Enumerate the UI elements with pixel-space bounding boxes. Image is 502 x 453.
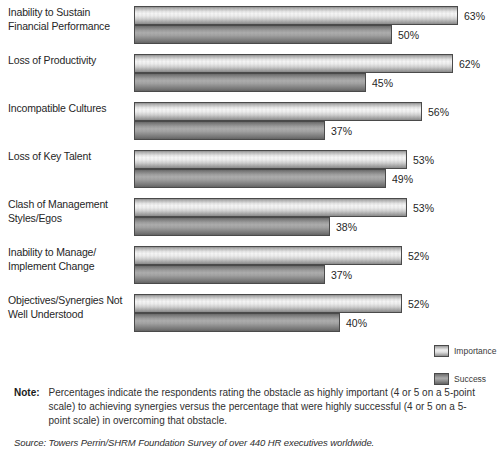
note-block: Note: Percentages indicate the responden…	[14, 386, 484, 428]
bar-group: Loss of Productivity62%45%	[0, 54, 502, 98]
bar-value-label: 56%	[428, 106, 449, 118]
legend-label-success: Success	[454, 374, 486, 384]
bar-importance: 62%	[134, 54, 453, 73]
bar-pair: 53%38%	[134, 198, 407, 236]
category-label: Inability to Manage/Implement Change	[8, 246, 130, 273]
category-label-line: Objectives/Synergies Not	[8, 294, 130, 308]
bar-pair: 52%37%	[134, 246, 402, 284]
bar-importance: 53%	[134, 198, 407, 217]
category-label-line: Loss of Productivity	[8, 54, 130, 68]
category-label: Objectives/Synergies NotWell Understood	[8, 294, 130, 321]
bar-group: Objectives/Synergies NotWell Understood5…	[0, 294, 502, 338]
bar-success: 45%	[134, 73, 366, 92]
bar-importance: 63%	[134, 6, 458, 25]
bar-pair: 63%50%	[134, 6, 458, 44]
bar-value-label: 49%	[392, 173, 413, 185]
bar-group: Incompatible Cultures56%37%	[0, 102, 502, 146]
bar-group: Inability to SustainFinancial Performanc…	[0, 6, 502, 50]
bar-importance: 56%	[134, 102, 422, 121]
category-label-line: Inability to Sustain	[8, 6, 130, 20]
bar-value-label: 52%	[408, 298, 429, 310]
source-line: Source: Towers Perrin/SHRM Foundation Su…	[14, 437, 494, 448]
bar-pair: 52%40%	[134, 294, 402, 332]
category-label: Inability to SustainFinancial Performanc…	[8, 6, 130, 33]
note-text: Percentages indicate the respondents rat…	[49, 386, 484, 428]
bar-importance: 53%	[134, 150, 407, 169]
category-label-line: Styles/Egos	[8, 212, 130, 226]
bar-pair: 56%37%	[134, 102, 422, 140]
bar-value-label: 37%	[331, 125, 352, 137]
bar-success: 49%	[134, 169, 386, 188]
bar-success: 37%	[134, 265, 325, 284]
bar-value-label: 37%	[331, 269, 352, 281]
bar-chart: Inability to SustainFinancial Performanc…	[0, 0, 502, 372]
category-label: Loss of Key Talent	[8, 150, 130, 164]
bar-success: 40%	[134, 313, 340, 332]
category-label-line: Clash of Management	[8, 198, 130, 212]
category-label-line: Well Understood	[8, 308, 130, 322]
legend-item-success: Success	[434, 372, 502, 386]
bar-value-label: 53%	[413, 154, 434, 166]
category-label-line: Financial Performance	[8, 20, 130, 34]
legend-swatch-importance	[434, 345, 449, 357]
legend-label-importance: Importance	[454, 346, 497, 356]
bar-value-label: 52%	[408, 250, 429, 262]
bar-importance: 52%	[134, 294, 402, 313]
bar-group: Inability to Manage/Implement Change52%3…	[0, 246, 502, 290]
bar-value-label: 38%	[336, 221, 357, 233]
bar-group: Loss of Key Talent53%49%	[0, 150, 502, 194]
bar-success: 38%	[134, 217, 330, 236]
bar-pair: 62%45%	[134, 54, 453, 92]
legend-swatch-success	[434, 373, 449, 385]
bar-importance: 52%	[134, 246, 402, 265]
note-label: Note:	[14, 386, 49, 428]
category-label: Incompatible Cultures	[8, 102, 130, 116]
category-label-line: Implement Change	[8, 260, 130, 274]
bar-pair: 53%49%	[134, 150, 407, 188]
bar-success: 50%	[134, 25, 392, 44]
category-label-line: Incompatible Cultures	[8, 102, 130, 116]
bar-value-label: 40%	[346, 317, 367, 329]
category-label-line: Loss of Key Talent	[8, 150, 130, 164]
category-label-line: Inability to Manage/	[8, 246, 130, 260]
bar-group: Clash of ManagementStyles/Egos53%38%	[0, 198, 502, 242]
bar-value-label: 50%	[398, 29, 419, 41]
bar-value-label: 63%	[464, 10, 485, 22]
bar-value-label: 45%	[372, 77, 393, 89]
bar-success: 37%	[134, 121, 325, 140]
bar-value-label: 62%	[459, 58, 480, 70]
bar-value-label: 53%	[413, 202, 434, 214]
category-label: Loss of Productivity	[8, 54, 130, 68]
category-label: Clash of ManagementStyles/Egos	[8, 198, 130, 225]
legend-item-importance: Importance	[434, 344, 502, 358]
